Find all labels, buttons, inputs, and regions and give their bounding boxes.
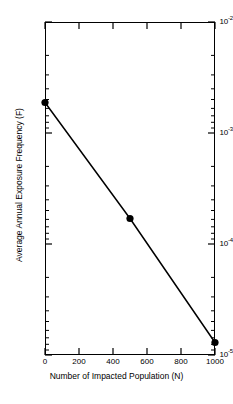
data-point — [126, 215, 133, 222]
chart-figure: 10-2 10-3 10-4 10-5 0 200 400 600 800 10… — [0, 0, 233, 404]
y-tick-label-1e-3: 10-3 — [193, 129, 233, 137]
y-tick-label-1e-4: 10-4 — [193, 240, 233, 248]
data-series-line — [45, 103, 215, 343]
data-point — [211, 339, 218, 346]
plot-canvas — [45, 22, 215, 355]
data-point — [41, 99, 48, 106]
x-major-ticks-bottom — [45, 348, 215, 355]
x-tick-label-600: 600 — [140, 357, 153, 366]
x-tick-label-400: 400 — [106, 357, 119, 366]
y-tick-label-1e-2: 10-2 — [193, 18, 233, 26]
x-tick-label-0: 0 — [43, 357, 47, 366]
y-axis-title: Average Annual Exposure Frequency (F) — [13, 65, 25, 305]
x-tick-label-1000: 1000 — [206, 357, 224, 366]
x-axis-title: Number of Impacted Population (N) — [0, 371, 233, 381]
x-tick-label-200: 200 — [72, 357, 85, 366]
x-tick-label-800: 800 — [174, 357, 187, 366]
x-major-ticks-top — [45, 22, 215, 29]
y-axis-title-wrapper: Average Annual Exposure Frequency (F) — [13, 65, 27, 305]
